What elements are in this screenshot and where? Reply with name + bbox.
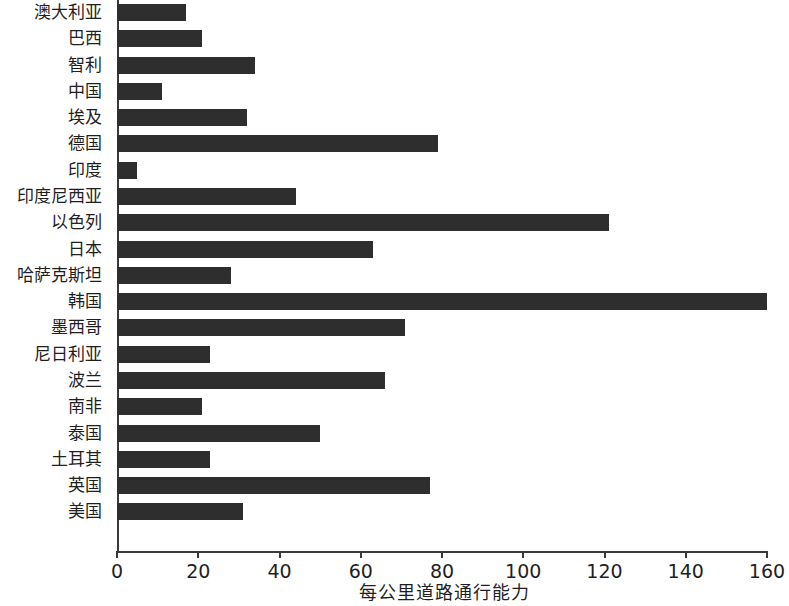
category-label: 智利 <box>0 56 110 74</box>
category-label: 中国 <box>0 82 110 100</box>
bar <box>117 319 405 336</box>
bar <box>117 477 430 494</box>
category-label: 以色列 <box>0 213 110 231</box>
category-label: 埃及 <box>0 108 110 126</box>
x-tick-mark <box>360 551 362 558</box>
bar <box>117 162 137 179</box>
bar-row <box>117 342 789 368</box>
category-label: 德国 <box>0 134 110 152</box>
category-label: 巴西 <box>0 29 110 47</box>
x-tick-mark <box>522 551 524 558</box>
x-tick-label: 120 <box>586 560 622 582</box>
bar-row <box>117 158 789 184</box>
bar <box>117 241 373 258</box>
category-label: 澳大利亚 <box>0 3 110 21</box>
x-tick-label: 20 <box>186 560 210 582</box>
bar-row <box>117 184 789 210</box>
category-label: 日本 <box>0 240 110 258</box>
bar-row <box>117 53 789 79</box>
bar <box>117 451 210 468</box>
bar <box>117 346 210 363</box>
bar <box>117 503 243 520</box>
bar <box>117 293 767 310</box>
bar-row <box>117 105 789 131</box>
category-label: 印度尼西亚 <box>0 187 110 205</box>
bar-row <box>117 26 789 52</box>
bar-row <box>117 131 789 157</box>
category-label: 波兰 <box>0 371 110 389</box>
category-label: 韩国 <box>0 292 110 310</box>
bar <box>117 57 255 74</box>
x-tick-mark <box>766 551 768 558</box>
bar-row <box>117 315 789 341</box>
bar <box>117 83 162 100</box>
bar-row <box>117 289 789 315</box>
x-axis-title-text: 每公里道路通行能力 <box>244 582 530 603</box>
category-label: 土耳其 <box>0 450 110 468</box>
bar-row <box>117 0 789 26</box>
bar <box>117 109 247 126</box>
x-tick-mark <box>604 551 606 558</box>
bar-row <box>117 210 789 236</box>
x-tick-mark <box>116 551 118 558</box>
bar-row <box>117 499 789 525</box>
category-label: 印度 <box>0 161 110 179</box>
bar-row <box>117 368 789 394</box>
x-tick-mark <box>279 551 281 558</box>
bar <box>117 372 385 389</box>
bar-row <box>117 237 789 263</box>
category-label: 美国 <box>0 502 110 520</box>
bar-row <box>117 473 789 499</box>
category-label: 英国 <box>0 476 110 494</box>
x-tick-label: 40 <box>267 560 291 582</box>
bar <box>117 188 296 205</box>
bar-row <box>117 421 789 447</box>
bar <box>117 135 438 152</box>
bar-row <box>117 263 789 289</box>
x-tick-label: 0 <box>111 560 123 582</box>
category-label: 尼日利亚 <box>0 345 110 363</box>
x-tick-label: 60 <box>349 560 373 582</box>
category-label: 南非 <box>0 397 110 415</box>
x-tick-label: 80 <box>430 560 454 582</box>
x-tick-label: 100 <box>505 560 541 582</box>
x-tick-mark <box>197 551 199 558</box>
category-label: 哈萨克斯坦 <box>0 266 110 284</box>
bar <box>117 425 320 442</box>
x-tick-mark <box>441 551 443 558</box>
x-tick-label: 140 <box>668 560 704 582</box>
bar <box>117 30 202 47</box>
x-tick-label: 160 <box>749 560 785 582</box>
bar-row <box>117 79 789 105</box>
bar-row <box>117 447 789 473</box>
bar <box>117 398 202 415</box>
bar <box>117 4 186 21</box>
bar <box>117 267 231 284</box>
category-label: 泰国 <box>0 424 110 442</box>
x-axis-title: 每公里道路通行能力 <box>0 583 774 603</box>
x-tick-mark <box>685 551 687 558</box>
category-label: 墨西哥 <box>0 318 110 336</box>
bar-row <box>117 394 789 420</box>
bar <box>117 214 609 231</box>
